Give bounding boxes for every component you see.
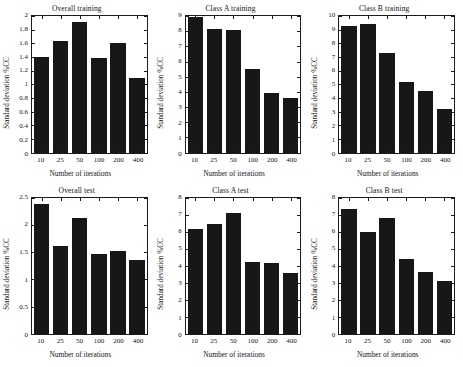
- panel-title: Class B test: [307, 186, 461, 195]
- plot-area: 012345678102550100200400: [167, 197, 302, 336]
- x-tick-mark: [349, 150, 350, 153]
- x-tick-mark: [61, 331, 62, 334]
- x-tick-mark: [368, 16, 369, 19]
- x-tick-labels: 102550100200400: [31, 156, 148, 166]
- x-tick-mark: [425, 331, 426, 334]
- x-tick-mark: [291, 150, 292, 153]
- plot-area: 00.511.522.5102550100200400: [13, 197, 148, 336]
- y-tick-label: 2: [25, 221, 29, 228]
- bar: [110, 43, 125, 153]
- x-tick-mark: [368, 198, 369, 201]
- x-tick-mark: [233, 198, 234, 201]
- x-axis-label: Number of iterations: [320, 350, 455, 359]
- y-tick-label: 0: [178, 332, 182, 339]
- plot-area: 012345678102550100200400: [320, 197, 455, 336]
- x-tick-mark: [195, 16, 196, 19]
- x-tick-mark: [137, 150, 138, 153]
- y-tick-label: 8: [332, 39, 336, 46]
- y-tick-label: 6: [332, 228, 336, 235]
- y-tick-label: 7: [178, 210, 182, 217]
- x-tick-mark: [233, 331, 234, 334]
- x-tick-mark: [118, 198, 119, 201]
- y-tick-labels: 012345678: [167, 197, 184, 336]
- x-tick-mark: [291, 198, 292, 201]
- chart-panel: Class A testStandard deviation %CC012345…: [154, 184, 308, 366]
- bar: [72, 218, 87, 334]
- y-tick-label: 0: [178, 150, 182, 157]
- x-tick-labels: 102550100200400: [338, 156, 455, 166]
- x-tick-mark: [214, 331, 215, 334]
- chart-panel: Class B trainingStandard deviation %CC01…: [307, 2, 461, 184]
- y-tick-mark: [144, 153, 147, 154]
- y-tick-label: 10: [328, 12, 335, 19]
- y-axis-label-text: Standard deviation %CC: [310, 57, 318, 128]
- y-axis-label-text: Standard deviation %CC: [157, 57, 165, 128]
- axes-frame: [338, 197, 455, 336]
- x-axis-label: Number of iterations: [167, 350, 302, 359]
- x-tick-mark: [368, 331, 369, 334]
- x-tick-label: 400: [286, 156, 297, 164]
- x-tick-mark: [272, 16, 273, 19]
- y-tick-label: 2.5: [19, 193, 28, 200]
- x-tick-mark: [291, 16, 292, 19]
- bar: [226, 213, 241, 334]
- x-tick-label: 10: [191, 337, 198, 345]
- x-tick-mark: [137, 198, 138, 201]
- x-axis-label: Number of iterations: [320, 169, 455, 178]
- x-tick-mark: [233, 150, 234, 153]
- y-tick-labels: 012345678: [320, 197, 337, 336]
- bar: [53, 246, 68, 334]
- y-tick-label: 8: [332, 193, 336, 200]
- x-tick-label: 25: [57, 156, 64, 164]
- x-tick-mark: [253, 198, 254, 201]
- y-tick-label: 1.2: [19, 67, 28, 74]
- x-tick-label: 25: [364, 156, 371, 164]
- y-tick-label: 9: [178, 12, 182, 19]
- y-tick-label: 2: [332, 297, 336, 304]
- x-tick-mark: [368, 150, 369, 153]
- bar: [379, 53, 394, 153]
- x-tick-mark: [253, 150, 254, 153]
- y-tick-label: 1: [25, 276, 29, 283]
- bar: [129, 78, 144, 152]
- x-tick-label: 50: [76, 337, 83, 345]
- y-axis-label: Standard deviation %CC: [155, 2, 167, 184]
- x-tick-label: 100: [94, 156, 105, 164]
- y-tick-labels: 00.20.40.60.811.21.41.61.82: [13, 15, 30, 154]
- y-tick-label: 3: [332, 280, 336, 287]
- bar: [188, 17, 203, 153]
- bar: [245, 262, 260, 334]
- x-tick-mark: [99, 331, 100, 334]
- bar: [91, 58, 106, 153]
- y-tick-mark: [451, 334, 454, 335]
- x-tick-labels: 102550100200400: [338, 337, 455, 347]
- x-tick-mark: [42, 150, 43, 153]
- x-tick-label: 25: [210, 156, 217, 164]
- x-tick-label: 200: [267, 337, 278, 345]
- x-tick-mark: [387, 150, 388, 153]
- x-tick-mark: [406, 150, 407, 153]
- x-tick-mark: [80, 331, 81, 334]
- axes-frame: [185, 197, 302, 336]
- y-tick-label: 2: [178, 297, 182, 304]
- x-tick-mark: [387, 331, 388, 334]
- x-tick-label: 25: [57, 337, 64, 345]
- y-tick-label: 0.4: [19, 122, 28, 129]
- bar-series: [32, 16, 147, 153]
- bar: [399, 82, 414, 153]
- y-tick-label: 0.8: [19, 95, 28, 102]
- panel-title: Class A test: [154, 186, 308, 195]
- x-tick-mark: [425, 16, 426, 19]
- x-tick-label: 100: [94, 337, 105, 345]
- y-tick-label: 1: [178, 314, 182, 321]
- x-tick-label: 100: [401, 337, 412, 345]
- bar: [418, 91, 433, 152]
- y-tick-label: 1: [178, 135, 182, 142]
- x-tick-labels: 102550100200400: [185, 337, 302, 347]
- y-tick-labels: 0123456789: [167, 15, 184, 154]
- x-tick-mark: [387, 198, 388, 201]
- bar: [72, 22, 87, 152]
- x-tick-mark: [61, 198, 62, 201]
- x-tick-mark: [272, 150, 273, 153]
- bar-series: [339, 198, 454, 335]
